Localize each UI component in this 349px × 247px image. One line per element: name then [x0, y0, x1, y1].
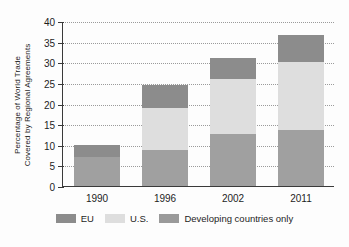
x-tick-label: 1990	[62, 193, 132, 204]
bar-2002: 2002	[210, 58, 256, 186]
bar-segment	[210, 58, 256, 79]
bar-segment	[278, 130, 324, 186]
bar-segment	[142, 108, 188, 150]
y-tick-label: 35	[44, 37, 55, 48]
y-tick	[58, 166, 64, 167]
x-tick-label: 1996	[130, 193, 200, 204]
y-tick	[58, 125, 64, 126]
legend-item: Developing countries only	[159, 213, 293, 224]
bar-1990: 1990	[74, 145, 120, 186]
y-tick-label: 30	[44, 58, 55, 69]
x-tick-label: 2011	[266, 193, 336, 204]
legend-swatch-icon	[105, 214, 125, 223]
bar-segment	[278, 35, 324, 62]
bar-segment	[74, 145, 120, 157]
legend-item: U.S.	[105, 213, 148, 224]
bar-segment	[74, 157, 120, 186]
y-tick-label: 25	[44, 78, 55, 89]
gridline	[63, 22, 334, 23]
chart-legend: EUU.S.Developing countries only	[0, 213, 349, 224]
y-tick	[58, 105, 64, 106]
bar-segment	[142, 85, 188, 108]
y-tick	[58, 43, 64, 44]
bar-segment	[210, 79, 256, 135]
chart-figure: Percentage of World Trade Covered by Reg…	[0, 0, 349, 247]
bar-segment	[278, 62, 324, 130]
y-tick	[58, 22, 64, 23]
y-tick	[58, 187, 64, 188]
y-tick-label: 0	[49, 182, 55, 193]
legend-label: Developing countries only	[184, 213, 293, 224]
bar-1996: 1996	[142, 85, 188, 186]
plot-area: 0510152025303540 1990199620022011	[62, 22, 334, 187]
y-tick-label: 5	[49, 161, 55, 172]
y-tick-label: 10	[44, 140, 55, 151]
y-tick	[58, 146, 64, 147]
y-tick	[58, 84, 64, 85]
bar-segment	[210, 134, 256, 186]
bar-segment	[142, 150, 188, 186]
y-tick-label: 20	[44, 99, 55, 110]
x-tick-label: 2002	[198, 193, 268, 204]
legend-swatch-icon	[56, 214, 76, 223]
legend-swatch-icon	[159, 214, 179, 223]
y-tick	[58, 63, 64, 64]
legend-label: U.S.	[130, 213, 148, 224]
y-tick-label: 15	[44, 120, 55, 131]
legend-label: EU	[81, 213, 94, 224]
bar-2011: 2011	[278, 35, 324, 186]
y-axis-title: Percentage of World Trade Covered by Reg…	[13, 20, 33, 190]
legend-item: EU	[56, 213, 94, 224]
y-tick-label: 40	[44, 17, 55, 28]
